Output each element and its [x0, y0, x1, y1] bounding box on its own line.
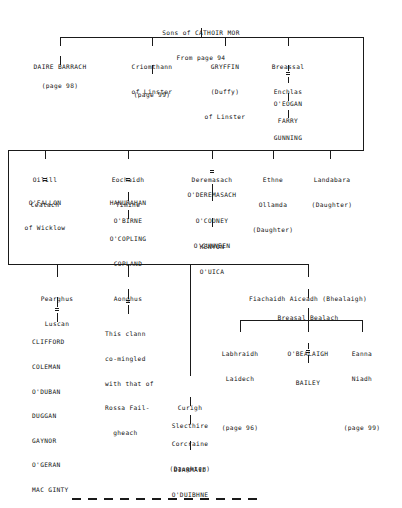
node-ethne-ollamda: Ethne Ollamda (Daughter) [253, 160, 294, 250]
list-item: DUGGAN [32, 412, 77, 420]
node-labhraidh-laidech: Labhraidh Laidech (page 96) [222, 334, 259, 449]
list-item: COLEMAN [32, 363, 77, 371]
connector-breasal-bus-stem [308, 308, 309, 320]
bottom-dashed-rule [72, 498, 262, 500]
connector-oderemasach-ocooney [212, 184, 213, 201]
node-eanna-ref: (page 99) [344, 424, 381, 432]
node-labhraidh-ref: (page 96) [222, 424, 259, 432]
node-gryffin-place: of Linster [205, 113, 246, 121]
connector-gen2-bus [8, 150, 364, 151]
connector-curigh-slecthire [190, 397, 191, 406]
connector-pearghus-b [57, 313, 58, 322]
node-kenyon-ouica: KENYON O'UICA [200, 227, 224, 293]
list-item: MAC GINTY [32, 486, 77, 494]
connector-gen3-bus [8, 264, 309, 265]
connector-gen1-drop-4 [288, 37, 289, 46]
node-gryffin-name: GRYFFIN [205, 63, 246, 71]
list-item: O'DUBAN [32, 388, 77, 396]
node-oilill-septs: O'FALLON of Wicklow [25, 183, 66, 249]
connector-gen2-rail-left [8, 150, 9, 264]
marriage-glyph-oilill [43, 178, 47, 179]
connector-aonghus-a [128, 289, 129, 299]
connector-gen2-drop-3 [212, 150, 213, 159]
node-gryffin-alias: (Duffy) [205, 88, 246, 96]
node-gryffin: GRYFFIN (Duffy) of Linster [205, 47, 246, 137]
node-criomthann-ref: (page 99) [134, 75, 171, 116]
connector-obealaigh-a [308, 343, 309, 349]
node-eanna-niadh: Eanna Niadh (page 99) [344, 334, 381, 449]
connector-hanurahan-obirne [128, 192, 129, 201]
node-pearghus-sept-list: CLIFFORD COLEMAN O'DUBAN DUGGAN GAYNOR O… [32, 322, 77, 508]
connector-gen4-drop-3 [362, 320, 363, 332]
marriage-glyph-obealaigh [306, 350, 310, 351]
marriage-glyph-deremasach [210, 170, 214, 171]
connector-pearghus-a [57, 297, 58, 307]
connector-gen4-bus [240, 320, 363, 321]
connector-breassal-a [288, 65, 289, 71]
connector-gen3-drop-3-curigh [190, 264, 191, 376]
connector-gen1-bus [60, 37, 364, 38]
marriage-glyph-pearghus [55, 308, 59, 309]
genealogy-chart: Sons of CATHOIR MOR From page 94 DAIRE B… [0, 0, 402, 508]
marriage-glyph-aonghus [126, 300, 130, 301]
node-bailey: BAILEY [296, 363, 320, 404]
connector-aonghus-b [128, 305, 129, 314]
connector-gen3-drop-4 [308, 264, 309, 277]
connector-gen1-drop-2 [152, 37, 153, 46]
connector-gen4-drop-1 [240, 320, 241, 332]
connector-slecthire-corcraine [190, 415, 191, 424]
node-daire-barrach-ref: (page 98) [42, 66, 79, 107]
connector-gen2-drop-2 [128, 150, 129, 159]
list-item: O'GERAN [32, 461, 77, 469]
node-gunning: GUNNING [274, 118, 303, 159]
node-landabara: Landabara (Daughter) [312, 160, 353, 226]
list-item: GAYNOR [32, 437, 77, 445]
connector-corcraine-diarmaid [190, 441, 191, 450]
connector-gen3-drop-2 [128, 264, 129, 277]
list-item: CLIFFORD [32, 338, 77, 346]
connector-criomthann-ref [152, 65, 153, 74]
connector-ocunneen-kenyon [212, 218, 213, 227]
connector-daire-ref [60, 56, 61, 65]
connector-gen2-drop-4 [273, 150, 274, 159]
node-aonghus-note: This clann co-mingled with that of Rossa… [105, 314, 154, 453]
connector-gen1-drop-3 [225, 37, 226, 46]
connector-obirne-ocopling [128, 210, 129, 219]
connector-root-stem [201, 28, 202, 37]
connector-gen1-drop-1 [60, 37, 61, 46]
connector-gen2-drop-5 [330, 150, 331, 159]
connector-gen1-rail-right [363, 37, 364, 150]
connector-gen3-drop-1 [57, 264, 58, 277]
connector-obealaigh-b [308, 355, 309, 363]
marriage-glyph-eochaidh [126, 178, 130, 179]
connector-gen2-drop-1 [45, 150, 46, 159]
connector-fiachaidh-breasal [308, 289, 309, 298]
connector-farry-gunning [288, 110, 289, 118]
connector-breassal-b [288, 77, 289, 83]
connector-oeogan-farry [288, 93, 289, 101]
marriage-glyph-breassal [286, 72, 290, 73]
connector-gen4-drop-2 [308, 320, 309, 332]
